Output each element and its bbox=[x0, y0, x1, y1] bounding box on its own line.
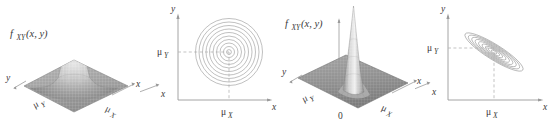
density-label-subscript: XY bbox=[16, 33, 27, 42]
panel-contour-correlated: x y x bbox=[415, 0, 554, 124]
base-tick-mu-x: μ X bbox=[379, 102, 395, 119]
tick-mu-y-subscript: Y bbox=[164, 51, 169, 60]
axis-label-x: x bbox=[271, 102, 277, 112]
panel-surface-uncorrelated: f XY (x, y) y x μ Y μ X bbox=[0, 0, 148, 124]
tick-mu-y-subscript: Y bbox=[434, 47, 439, 56]
base-mu-y-symbol: μ bbox=[31, 99, 40, 110]
depth-axis-arrow bbox=[415, 82, 430, 92]
bivariate-normal-figure: f XY (x, y) y x μ Y μ X bbox=[0, 0, 554, 124]
tick-label-mu-y: μ Y bbox=[427, 43, 439, 56]
base-tick-mu-y: μ Y bbox=[31, 96, 48, 113]
panel-surface-correlated: f XY (x, y) y x 0 μ Y μ X bbox=[280, 0, 422, 124]
tick-mu-x-symbol: μ bbox=[221, 107, 226, 117]
depth-axis-label-x: x bbox=[431, 87, 437, 97]
density-function-label: f XY (x, y) bbox=[285, 18, 323, 32]
base-mu-y-subscript: Y bbox=[308, 93, 316, 103]
tick-mu-y-symbol: μ bbox=[427, 43, 432, 53]
density-label-subscript: XY bbox=[291, 23, 302, 32]
depth-axis-arrow bbox=[140, 84, 159, 94]
base-tick-mu-y: μ Y bbox=[300, 90, 316, 107]
density-function-label: f XY (x, y) bbox=[10, 28, 48, 42]
axis-x bbox=[448, 98, 543, 101]
base-mu-y-symbol: μ bbox=[300, 93, 309, 104]
density-label-f: f bbox=[285, 18, 290, 29]
density-label-args: (x, y) bbox=[26, 28, 48, 40]
axis-label-x: x bbox=[542, 102, 548, 112]
axis-y-depth bbox=[13, 81, 26, 89]
axis-x bbox=[178, 98, 272, 101]
axis-label-y: y bbox=[170, 4, 176, 14]
density-surface-mound bbox=[30, 33, 118, 100]
tick-mu-y-symbol: μ bbox=[157, 47, 162, 57]
tick-mu-x-subscript: X bbox=[227, 111, 233, 120]
tick-label-mu-y: μ Y bbox=[157, 47, 169, 60]
axis-label-y: y bbox=[440, 4, 446, 14]
tick-label-mu-x: μ X bbox=[221, 107, 233, 120]
tick-mu-x-subscript: X bbox=[492, 111, 498, 120]
depth-axis-label-x: x bbox=[160, 89, 166, 99]
base-tick-mu-x: μ X bbox=[103, 103, 120, 120]
density-label-args: (x, y) bbox=[301, 18, 323, 30]
axis-y bbox=[176, 14, 179, 100]
axis-label-y: y bbox=[281, 67, 287, 77]
base-mu-y-subscript: Y bbox=[39, 99, 48, 109]
axis-label-y: y bbox=[5, 73, 11, 83]
density-label-f: f bbox=[10, 28, 15, 39]
tick-mu-x-symbol: μ bbox=[486, 107, 491, 117]
origin-label-zero: 0 bbox=[338, 111, 343, 121]
tick-label-mu-x: μ X bbox=[486, 107, 498, 120]
panel-contour-uncorrelated: x y x bbox=[140, 0, 280, 124]
axis-y bbox=[446, 14, 449, 100]
